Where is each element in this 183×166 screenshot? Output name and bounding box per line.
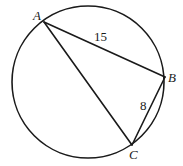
length-label-ab: 15 (94, 29, 107, 44)
length-label-bc: 8 (140, 98, 147, 113)
vertex-label-a: A (32, 8, 41, 23)
segment-bc (132, 77, 165, 145)
vertex-label-c: C (129, 147, 138, 162)
vertex-label-b: B (168, 70, 176, 85)
segment-ac (44, 22, 132, 145)
circle-triangle-diagram: A B C 15 8 (0, 0, 183, 166)
circle (12, 6, 164, 158)
